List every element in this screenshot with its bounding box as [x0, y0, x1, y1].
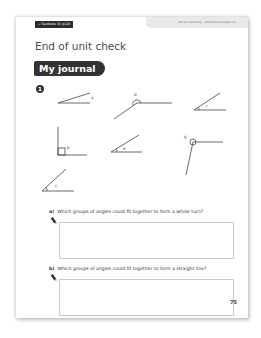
angle-diagrams: a d f b e — [16, 17, 248, 217]
angle-label: f — [206, 104, 208, 109]
question-text: Which groups of angles could fit togethe… — [57, 209, 203, 214]
answer-box-b[interactable] — [59, 279, 234, 316]
question-text: Which groups of angles could fit togethe… — [57, 266, 206, 271]
question-b: b)Which groups of angles could fit toget… — [49, 266, 207, 271]
workbook-page: Unit 13: Geometry – properties of shapes… — [16, 17, 248, 318]
angle-label: e — [123, 146, 126, 151]
page-number: 75 — [230, 299, 237, 305]
angle-label: g — [184, 134, 187, 139]
angle-e: e — [111, 135, 142, 152]
angle-c: c — [42, 169, 74, 191]
answer-box-a[interactable] — [59, 222, 234, 259]
angle-d: d — [114, 92, 172, 119]
question-letter: a) — [49, 209, 54, 214]
angle-g: g — [184, 134, 223, 175]
angle-label: a — [91, 95, 94, 100]
angle-a: a — [58, 93, 94, 103]
question-a: a)Which groups of angles could fit toget… — [49, 209, 203, 214]
angle-b: b — [58, 127, 87, 155]
angle-label: b — [67, 145, 70, 150]
angle-f: f — [194, 93, 226, 110]
angle-label: d — [134, 92, 137, 97]
angle-label: c — [55, 183, 57, 188]
pencil-icon — [50, 217, 57, 224]
question-letter: b) — [49, 266, 54, 271]
pencil-icon — [50, 274, 57, 281]
